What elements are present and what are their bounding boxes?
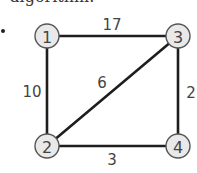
- weight-label-2-3: 6: [97, 74, 107, 92]
- node-label: 3: [173, 28, 183, 47]
- node-label: 2: [42, 138, 52, 157]
- node-1: 1: [35, 24, 59, 48]
- edge-2-3: [47, 36, 178, 146]
- node-4: 4: [166, 134, 190, 158]
- weight-label-2-4: 3: [107, 151, 117, 169]
- node-label: 1: [42, 28, 52, 47]
- weight-label-1-3: 17: [102, 16, 121, 34]
- node-label: 4: [173, 138, 183, 157]
- weight-label-3-4: 2: [186, 84, 196, 102]
- weight-label-1-2: 10: [22, 83, 41, 101]
- node-3: 3: [166, 24, 190, 48]
- edges: [47, 36, 178, 146]
- weighted-graph: 17 10 6 2 3 1 2 3 4: [0, 0, 197, 173]
- node-2: 2: [35, 134, 59, 158]
